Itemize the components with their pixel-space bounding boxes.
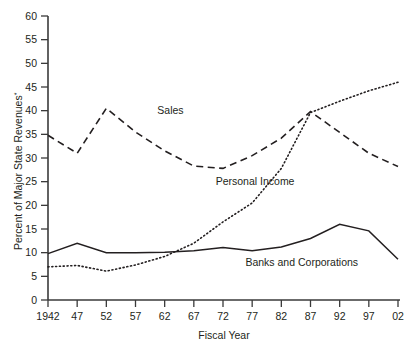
y-tick-label: 30 bbox=[25, 152, 37, 164]
x-tick-label: 52 bbox=[100, 310, 112, 322]
x-axis-title-text: Fiscal Year bbox=[198, 329, 250, 341]
series-label-sales: Sales bbox=[157, 104, 183, 116]
x-tick-label: 97 bbox=[363, 310, 375, 322]
x-tick-label: 82 bbox=[275, 310, 287, 322]
x-tick-label: 92 bbox=[334, 310, 346, 322]
y-tick-label: 5 bbox=[31, 270, 37, 282]
y-tick-label: 60 bbox=[25, 10, 37, 22]
y-tick-label: 50 bbox=[25, 57, 37, 69]
y-axis-title-text: Percent of Major State Revenues* bbox=[12, 92, 24, 250]
chart-container: 051015202530354045505560 194247525762677… bbox=[0, 0, 420, 353]
y-axis-title: Percent of Major State Revenues* bbox=[12, 92, 24, 250]
x-tick-label: 77 bbox=[246, 310, 258, 322]
x-tick-label: 02 bbox=[392, 310, 404, 322]
y-tick-label: 45 bbox=[25, 81, 37, 93]
x-tick-label: 87 bbox=[305, 310, 317, 322]
x-tick-label: 1942 bbox=[36, 310, 60, 322]
x-tick-label: 72 bbox=[217, 310, 229, 322]
y-tick-label: 0 bbox=[31, 294, 37, 306]
y-tick-label: 20 bbox=[25, 199, 37, 211]
y-tick-label: 40 bbox=[25, 104, 37, 116]
y-tick-label: 25 bbox=[25, 175, 37, 187]
x-tick-label: 47 bbox=[71, 310, 83, 322]
series-label-banks-and-corporations: Banks and Corporations bbox=[245, 256, 358, 268]
x-tick-label: 67 bbox=[188, 310, 200, 322]
y-tick-label: 15 bbox=[25, 223, 37, 235]
series-label-personal-income: Personal Income bbox=[216, 175, 295, 187]
y-tick-label: 10 bbox=[25, 246, 37, 258]
x-tick-label: 57 bbox=[130, 310, 142, 322]
y-tick-label: 35 bbox=[25, 128, 37, 140]
y-tick-label: 55 bbox=[25, 33, 37, 45]
x-tick-label: 62 bbox=[159, 310, 171, 322]
line-chart: 051015202530354045505560 194247525762677… bbox=[0, 0, 420, 353]
